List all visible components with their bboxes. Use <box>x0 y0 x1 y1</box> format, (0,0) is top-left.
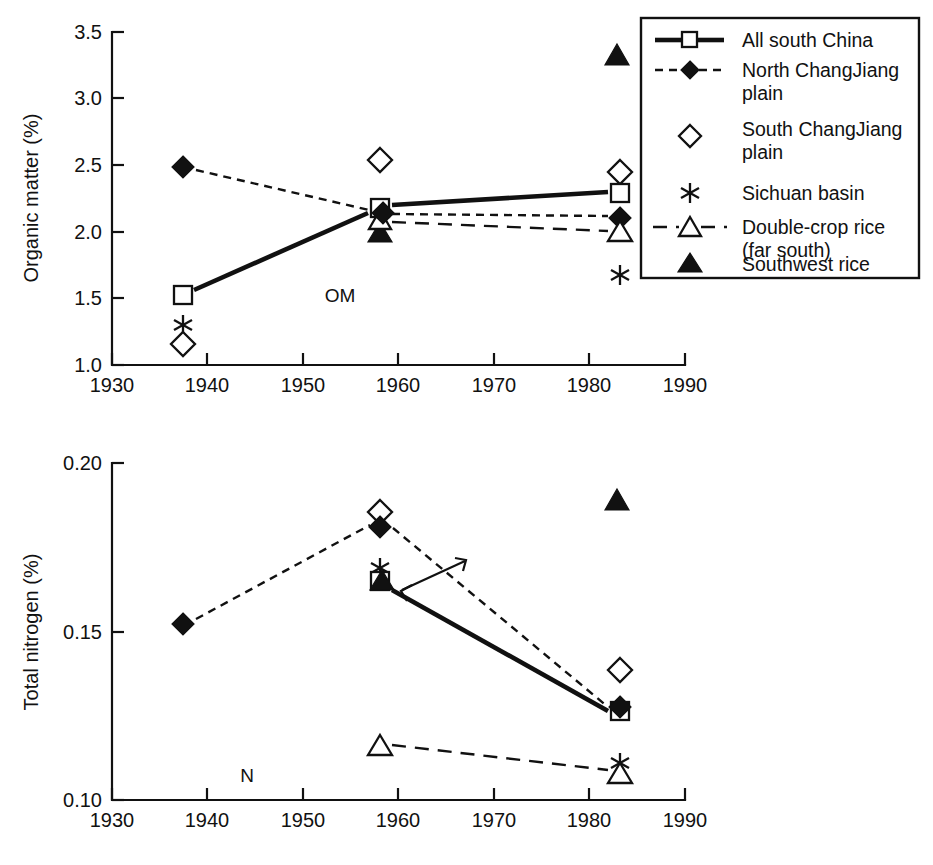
top-xtick-1980: 1980 <box>567 374 612 396</box>
top-axis-lines <box>112 32 685 365</box>
marker-open-diamond <box>608 160 632 184</box>
legend-label-line2: plain <box>742 141 783 163</box>
marker-open-diamond <box>608 658 632 682</box>
top-y-tick-labels: 3.5 3.0 2.5 2.0 1.5 1.0 <box>74 21 102 376</box>
marker-open-diamond <box>368 148 392 172</box>
top-y-axis-title: Organic matter (%) <box>20 114 42 283</box>
bottom-line-all-south-china <box>392 590 608 711</box>
top-xtick-1930: 1930 <box>90 374 135 396</box>
divergence-arrow-icon <box>401 558 466 601</box>
top-panel-annotation: OM <box>325 285 356 306</box>
top-line-double-crop-rice <box>392 222 608 231</box>
bottom-y-tick-labels: 0.20 0.15 0.10 <box>63 452 102 811</box>
top-line-all-south-china-b <box>392 192 608 205</box>
bottom-y-axis-title: Total nitrogen (%) <box>20 554 42 711</box>
top-line-all-south-china-a <box>194 213 368 290</box>
bottom-xtick-1970: 1970 <box>472 809 517 831</box>
top-x-tick-labels: 1930 1940 1950 1960 1970 1980 1990 <box>90 374 708 396</box>
bottom-xtick-1940: 1940 <box>185 809 230 831</box>
bottom-ytick-0.20: 0.20 <box>63 452 102 474</box>
legend-item-all-south-china[interactable]: All south China <box>655 29 873 51</box>
top-xtick-1960: 1960 <box>376 374 421 396</box>
figure-root: 3.5 3.0 2.5 2.0 1.5 1.0 1930 1940 1950 1… <box>0 0 933 865</box>
legend-label: South ChangJiang <box>742 118 902 140</box>
top-ytick-1.5: 1.5 <box>74 287 102 309</box>
bottom-ytick-0.10: 0.10 <box>63 789 102 811</box>
bottom-line-north-changjiang-a <box>196 525 370 619</box>
bottom-y-ticks <box>112 463 124 800</box>
bottom-xtick-1930: 1930 <box>90 809 135 831</box>
top-x-ticks <box>112 353 685 365</box>
top-xtick-1950: 1950 <box>281 374 326 396</box>
top-xtick-1970: 1970 <box>472 374 517 396</box>
top-xtick-1990: 1990 <box>663 374 708 396</box>
legend-label: Sichuan basin <box>742 182 865 204</box>
top-panel: 3.5 3.0 2.5 2.0 1.5 1.0 1930 1940 1950 1… <box>20 21 707 396</box>
bottom-markers-1958 <box>368 500 394 755</box>
bottom-panel-annotation: N <box>240 765 254 786</box>
legend-label: Double-crop rice <box>742 216 885 238</box>
bottom-xtick-1990: 1990 <box>663 809 708 831</box>
top-line-north-changjiang-a <box>196 170 369 210</box>
bottom-line-north-changjiang-b <box>393 528 608 707</box>
bottom-xtick-1980: 1980 <box>567 809 612 831</box>
marker-asterisk <box>611 265 629 285</box>
legend: All south China North ChangJiang plain S… <box>641 18 919 278</box>
top-markers-1958 <box>368 148 394 242</box>
bottom-markers-1938 <box>172 613 194 635</box>
bottom-x-ticks <box>112 788 685 800</box>
bottom-markers-1983 <box>605 489 632 783</box>
marker-open-square <box>611 184 629 202</box>
legend-label-line2: plain <box>742 82 783 104</box>
marker-open-diamond <box>171 332 195 356</box>
bottom-line-double-crop-rice <box>392 745 608 770</box>
marker-open-square <box>174 286 192 304</box>
top-ytick-1.0: 1.0 <box>74 354 102 376</box>
top-y-ticks <box>112 32 124 365</box>
marker-open-triangle <box>608 221 632 241</box>
top-line-north-changjiang-b <box>392 214 608 216</box>
marker-filled-diamond <box>369 516 391 538</box>
top-ytick-3.0: 3.0 <box>74 87 102 109</box>
top-ytick-2.5: 2.5 <box>74 154 102 176</box>
marker-filled-diamond <box>172 613 194 635</box>
bottom-x-tick-labels: 1930 1940 1950 1960 1970 1980 1990 <box>90 809 708 831</box>
legend-label: All south China <box>742 29 873 51</box>
top-xtick-1940: 1940 <box>185 374 230 396</box>
chart-canvas: 3.5 3.0 2.5 2.0 1.5 1.0 1930 1940 1950 1… <box>0 0 933 865</box>
bottom-xtick-1960: 1960 <box>376 809 421 831</box>
bottom-axis-lines <box>112 463 685 800</box>
marker-filled-triangle <box>605 44 629 65</box>
bottom-ytick-0.15: 0.15 <box>63 621 102 643</box>
bottom-panel: 0.20 0.15 0.10 1930 1940 1950 1960 1970 … <box>20 452 707 831</box>
bottom-xtick-1950: 1950 <box>281 809 326 831</box>
marker-open-triangle <box>608 763 632 783</box>
marker-filled-triangle <box>605 489 629 510</box>
marker-open-square <box>682 32 697 47</box>
marker-filled-diamond <box>172 156 194 178</box>
legend-label: Southwest rice <box>742 253 870 275</box>
top-ytick-3.5: 3.5 <box>74 21 102 43</box>
top-ytick-2.0: 2.0 <box>74 221 102 243</box>
marker-open-triangle <box>368 735 392 755</box>
top-markers-1938 <box>171 156 195 356</box>
top-markers-1983 <box>605 44 632 285</box>
legend-label: North ChangJiang <box>742 59 899 81</box>
